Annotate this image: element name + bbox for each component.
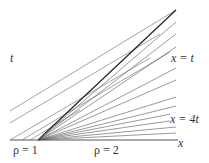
rho-right-label: ρ = 2	[94, 144, 119, 156]
t-axis-label: t	[10, 52, 13, 64]
rho-left-label: ρ = 1	[13, 144, 38, 156]
x-eq-t-label: x = t	[171, 52, 194, 64]
x-axis-label: x	[178, 137, 183, 149]
rarefaction-fan	[38, 22, 176, 140]
left-characteristics	[10, 10, 176, 140]
x-eq-4t-label: x = 4t	[170, 113, 199, 125]
shock-line	[38, 10, 176, 140]
